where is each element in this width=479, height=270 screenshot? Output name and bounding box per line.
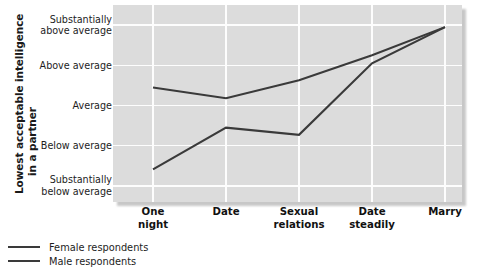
x-axis-tick-label-line-1: One — [142, 206, 165, 217]
y-axis-tick-label: Substantiallybelow average — [30, 174, 112, 197]
x-axis-tick-label-line-2: steadily — [349, 219, 395, 230]
chart-legend: Female respondentsMale respondents — [8, 240, 268, 268]
x-axis-tick-label-line-2: relations — [274, 219, 325, 230]
y-axis-tick-label: Above average — [30, 60, 112, 72]
y-axis-tick-label-line-1: Below average — [41, 140, 112, 151]
legend-item-label: Male respondents — [49, 256, 136, 267]
x-axis-tick-label-line-1: Date — [358, 206, 385, 217]
x-axis-tick-labels: OnenightDateSexualrelationsDatesteadilyM… — [113, 206, 462, 238]
y-axis-tick-labels: Substantiallyabove averageAbove averageA… — [30, 0, 112, 205]
legend-line-swatch-icon — [8, 246, 40, 249]
y-axis-title: Lowest acceptable intelligence in a part… — [0, 0, 30, 205]
y-axis-tick-label-line-1: Substantially — [50, 14, 112, 25]
y-axis-tick-label-line-2: above average — [40, 25, 112, 36]
series-line-female-respondents — [153, 27, 445, 98]
legend-line-swatch-icon — [8, 260, 40, 263]
plot-area — [113, 5, 462, 202]
series-canvas — [113, 5, 462, 202]
y-axis-tick-label-line-1: Above average — [40, 60, 112, 71]
legend-item: Male respondents — [8, 254, 268, 268]
y-axis-tick-label-line-1: Substantially — [50, 174, 112, 185]
x-axis-tick-label-line-2: night — [138, 219, 168, 230]
y-axis-tick-label: Average — [30, 100, 112, 112]
x-axis-tick-label-line-1: Marry — [428, 206, 462, 217]
x-axis-tick-label: Marry — [400, 206, 479, 219]
y-axis-tick-label: Below average — [30, 140, 112, 152]
legend-item: Female respondents — [8, 240, 268, 254]
y-axis-tick-label-line-2: below average — [41, 186, 112, 197]
legend-item-label: Female respondents — [49, 242, 148, 253]
x-axis-tick-label-line-1: Date — [212, 206, 239, 217]
series-line-male-respondents — [153, 27, 445, 169]
x-axis-tick-label-line-1: Sexual — [280, 206, 318, 217]
y-axis-tick-label: Substantiallyabove average — [30, 14, 112, 37]
y-axis-tick-label-line-1: Average — [73, 100, 112, 111]
y-axis-title-line-1: Lowest acceptable intelligence — [13, 14, 26, 194]
